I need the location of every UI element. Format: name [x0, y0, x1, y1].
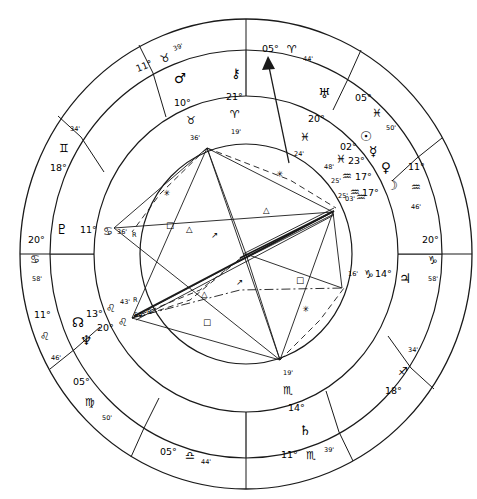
uranus-icon: ♅ — [318, 85, 330, 101]
chiron-icon: ⚷ — [231, 65, 241, 81]
neptune-icon: ♆ — [80, 332, 92, 348]
aspect-lines — [114, 148, 344, 360]
jupiter-icon: ♃ — [399, 270, 411, 286]
asc-degree: 20° — [28, 234, 45, 245]
h9-degree: 05° — [355, 92, 372, 103]
chiron-degree: 21° — [226, 91, 243, 102]
label-house-8: 11° ♒ 46' — [408, 161, 425, 211]
label-ic: 05° ♎ 44' — [160, 446, 211, 466]
pluto-sign-icon: ♋ — [103, 225, 113, 238]
saturn-sign-icon: ♏ — [283, 384, 293, 397]
jupiter-minute: 16' — [348, 270, 358, 278]
mercury-degree: 23° — [348, 155, 365, 166]
label-ascendant: 20° ♋ 58' — [28, 234, 45, 283]
aspect-square-1: □ — [166, 220, 174, 230]
asc-sign-icon: ♋ — [30, 253, 40, 266]
moon-minute: 03' — [345, 195, 355, 203]
label-descendant: 20° ♑ 58' — [422, 234, 439, 283]
uranus-degree: 20° — [308, 113, 325, 124]
node-minute: 54' — [134, 311, 144, 319]
label-house-9: 05° ♓ 50' — [355, 92, 396, 132]
h3-degree: 05° — [73, 376, 90, 387]
mercury-sign-icon: ♒ — [342, 170, 352, 183]
label-house-12: 34' ♊ 18° — [50, 125, 80, 173]
sun-degree: 02° — [340, 141, 357, 152]
ic-minute: 44' — [201, 458, 211, 466]
aspect-sextile-2: ✳ — [276, 169, 283, 179]
h3-minute: 50' — [102, 414, 112, 422]
aspect-trine-2: △ — [263, 205, 270, 215]
node-retrograde: R — [147, 308, 152, 316]
label-house-2: 11° ♌ 46' — [34, 309, 61, 362]
mars-minute: 36' — [190, 134, 200, 142]
aspect-semisextile-1: ↗ — [211, 230, 218, 240]
mars-icon: ♂ — [174, 70, 186, 86]
h2-degree: 11° — [34, 309, 51, 320]
node-degree: 20° — [97, 322, 114, 333]
planet-uranus: ♅ 20° ♓ 24' — [294, 85, 330, 158]
h6-degree: 18° — [385, 385, 402, 396]
mc-degree: 05° — [262, 43, 279, 54]
h11-minute: 39' — [172, 42, 185, 53]
planet-jupiter: 16' ♑ 14° ♃ — [348, 268, 411, 286]
h5-sign-icon: ♏ — [306, 449, 316, 462]
aspect-symbols: ✳ □ △ ↗ ✳ △ □ ↗ △ □ ✳ — [163, 169, 309, 327]
h12-minute: 34' — [70, 125, 80, 133]
planet-chiron: ⚷ 21° ♈ 19' — [226, 65, 243, 136]
venus-degree: 17° — [355, 171, 372, 182]
mc-sign-icon: ♈ — [287, 43, 297, 56]
pluto-retrograde: R — [132, 231, 137, 239]
sun-sign-icon: ♓ — [336, 153, 346, 166]
mc-arrow — [262, 56, 289, 163]
moon-icon: ☽ — [386, 177, 398, 193]
aspect-square-2: □ — [296, 275, 304, 285]
label-house-5: 11° ♏ 39' — [281, 446, 334, 462]
h12-degree: 18° — [50, 162, 67, 173]
uranus-sign-icon: ♓ — [300, 131, 310, 144]
chiron-sign-icon: ♈ — [230, 108, 240, 121]
jupiter-degree: 14° — [375, 268, 392, 279]
neptune-degree: 13° — [86, 308, 103, 319]
label-house-6: 34' ♐ 18° — [385, 346, 418, 396]
dsc-degree: 20° — [422, 234, 439, 245]
neptune-minute: 43' — [120, 298, 130, 306]
venus-icon: ♀ — [381, 159, 391, 175]
planet-mars: ♂ 10° ♉ 36' — [174, 70, 200, 142]
aspect-trine-1: △ — [186, 224, 193, 234]
mars-sign-icon: ♉ — [186, 114, 196, 127]
chiron-minute: 19' — [231, 128, 241, 136]
aspect-trine-3: △ — [201, 289, 208, 299]
mc-minute: 44' — [303, 55, 313, 63]
h9-minute: 50' — [386, 124, 396, 132]
neptune-sign-icon: ♌ — [106, 302, 116, 315]
h2-minute: 46' — [51, 354, 61, 362]
moon-sign-icon: ♒ — [356, 191, 366, 204]
h11-degree: 11° — [134, 58, 154, 75]
asc-minute: 58' — [32, 275, 42, 283]
chart-svg: ✳ □ △ ↗ ✳ △ □ ↗ △ □ ✳ 05° ♈ 44' 11° ♉ 39… — [0, 0, 477, 499]
neptune-retrograde: R — [133, 296, 138, 304]
sun-icon: ☉ — [360, 128, 372, 144]
h8-sign-icon: ♒ — [411, 181, 421, 194]
north-node-icon: ☊ — [72, 314, 84, 330]
mars-degree: 10° — [174, 97, 191, 108]
h6-minute: 34' — [408, 346, 418, 354]
h8-degree: 11° — [408, 161, 425, 172]
label-house-3: 05° ♍ 50' — [73, 376, 112, 422]
h12-sign-icon: ♊ — [59, 142, 69, 155]
planet-saturn: 19' ♏ 14° ♄ — [283, 369, 311, 438]
saturn-degree: 14° — [288, 402, 305, 413]
pluto-degree: 11° — [80, 224, 97, 235]
ic-degree: 05° — [160, 446, 177, 457]
aspect-sextile-3: ✳ — [302, 304, 309, 314]
pluto-icon: ♇ — [56, 221, 68, 237]
h8-minute: 46' — [411, 203, 421, 211]
aspect-semisextile-2: ↗ — [236, 277, 243, 287]
ic-sign-icon: ♎ — [185, 449, 195, 462]
h5-minute: 39' — [324, 446, 334, 454]
dsc-minute: 58' — [428, 275, 438, 283]
aspect-sextile-1: ✳ — [163, 188, 170, 198]
aspect-square-3: □ — [203, 317, 211, 327]
pluto-minute: 36' — [117, 228, 127, 236]
jupiter-sign-icon: ♑ — [364, 268, 374, 281]
